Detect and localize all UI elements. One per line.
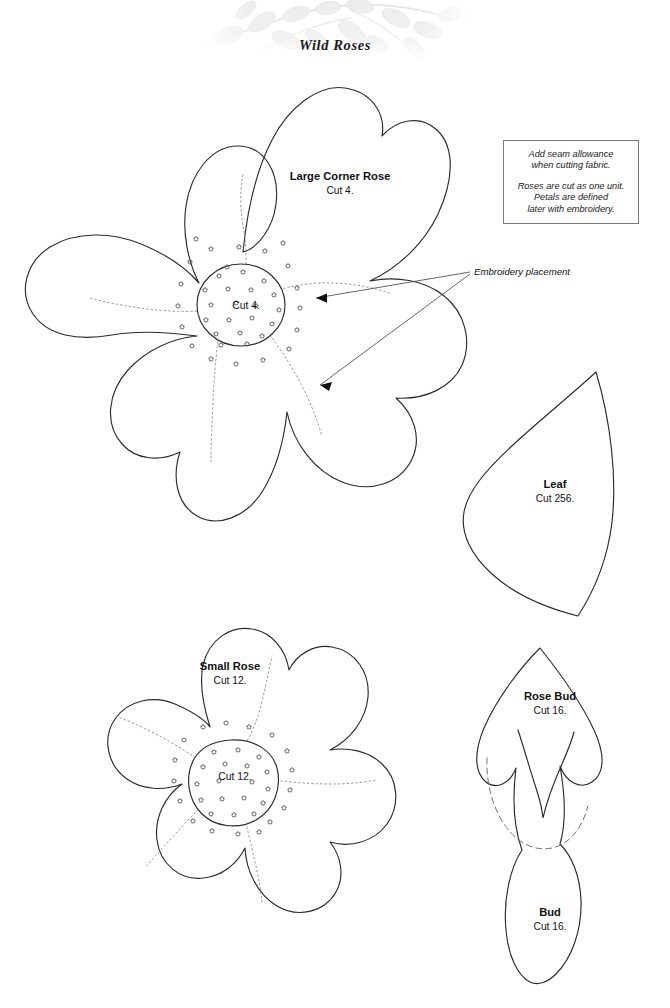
label-large-corner-rose: Large Corner Rose Cut 4. <box>215 170 465 197</box>
pattern-sheet-page: Wild Roses <box>0 0 670 1008</box>
label-bud: Bud Cut 16. <box>470 906 630 933</box>
large-corner-rose-cut: Cut 4. <box>215 185 465 197</box>
rose-bud-name: Rose Bud <box>470 690 630 704</box>
note-paragraph-2: Roses are cut as one unit. Petals are de… <box>518 181 625 216</box>
embroidery-placement-arrows <box>316 272 470 391</box>
label-small-rose: Small Rose Cut 12. <box>105 660 355 687</box>
page-title: Wild Roses <box>0 37 670 54</box>
leaf-cut: Cut 256. <box>480 493 630 505</box>
seam-allowance-note-box: Add seam allowance when cutting fabric. … <box>503 140 639 224</box>
bud-name: Bud <box>470 906 630 920</box>
small-rose-cut: Cut 12. <box>105 675 355 687</box>
stamen-dots-small-inner <box>195 747 271 817</box>
leaf-name: Leaf <box>480 478 630 492</box>
rose-bud-cut: Cut 16. <box>470 705 630 717</box>
embroidery-placement-label: Embroidery placement <box>474 266 570 277</box>
bud-cut: Cut 16. <box>470 921 630 933</box>
note-paragraph-1: Add seam allowance when cutting fabric. <box>529 149 614 172</box>
small-rose-center-cut: Cut 12. <box>185 771 285 782</box>
label-leaf: Leaf Cut 256. <box>480 478 630 505</box>
label-rose-bud: Rose Bud Cut 16. <box>470 690 630 717</box>
large-corner-rose-name: Large Corner Rose <box>215 170 465 184</box>
small-rose-name: Small Rose <box>105 660 355 674</box>
large-corner-rose-center-cut: Cut 4. <box>196 300 296 311</box>
